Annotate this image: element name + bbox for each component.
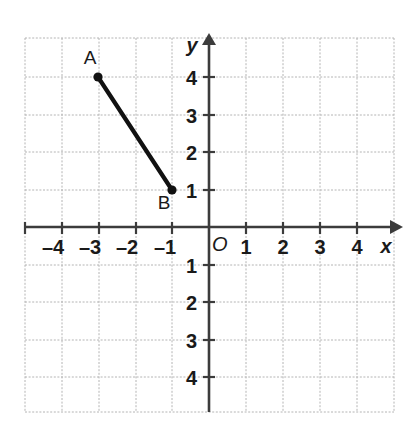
x-tick-label-4: 4 <box>351 236 363 258</box>
y-axis-arrow <box>202 33 216 45</box>
x-tick-label-neg-4: –4 <box>42 236 65 258</box>
x-axis-label: x <box>379 235 392 257</box>
axes-group <box>25 45 390 412</box>
x-tick-label-neg-3: –3 <box>79 236 101 258</box>
x-tick-label-neg-1: –1 <box>154 236 176 258</box>
point-a-label: A <box>84 47 97 68</box>
x-tick-label-3: 3 <box>314 236 325 258</box>
point-a-marker <box>93 72 102 81</box>
x-tick-label-1: 1 <box>240 236 251 258</box>
y-tick-label-neg-1: 1 <box>186 255 197 277</box>
y-tick-label-neg-3: 3 <box>186 330 197 352</box>
y-tick-label-1: 1 <box>186 180 197 202</box>
x-tick-label-2: 2 <box>277 236 288 258</box>
point-b-label: B <box>158 192 171 213</box>
y-tick-label-3: 3 <box>186 105 197 127</box>
coordinate-plane-svg: –4 –3 –2 –1 O 1 2 3 4 x 4 3 2 1 1 2 3 4 … <box>0 0 410 432</box>
segment-ab <box>98 77 172 190</box>
y-axis-label: y <box>185 34 198 56</box>
coordinate-plane-figure: –4 –3 –2 –1 O 1 2 3 4 x 4 3 2 1 1 2 3 4 … <box>0 0 410 432</box>
x-tick-label-neg-2: –2 <box>116 236 138 258</box>
x-axis-arrow <box>390 220 403 234</box>
y-tick-label-neg-4: 4 <box>186 367 198 389</box>
origin-label: O <box>212 233 228 255</box>
y-tick-label-neg-2: 2 <box>186 292 197 314</box>
y-tick-label-4: 4 <box>186 67 198 89</box>
y-tick-label-2: 2 <box>186 142 197 164</box>
